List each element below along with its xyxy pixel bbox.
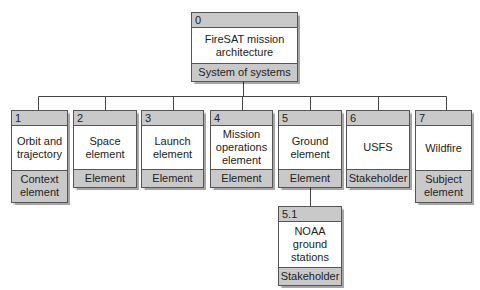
node-type: Element (211, 169, 272, 187)
node-title: NOAA ground stations (279, 222, 341, 267)
node-2-space-element: 2 Space element Element (73, 110, 137, 188)
node-type: Stakeholder (279, 267, 341, 285)
node-3-launch-element: 3 Launch element Element (141, 110, 204, 188)
node-id: 5 (279, 111, 341, 126)
node-id: 3 (142, 111, 203, 126)
node-0-firesat-mission-architecture: 0 FireSAT mission architecture System of… (191, 12, 298, 82)
node-5-1-noaa-ground-stations: 5.1 NOAA ground stations Stakeholder (278, 206, 342, 286)
node-title: Launch element (142, 126, 203, 169)
node-6-usfs: 6 USFS Stakeholder (346, 110, 410, 188)
node-title: USFS (347, 126, 409, 169)
node-title: Space element (74, 126, 136, 169)
node-type: System of systems (192, 63, 297, 81)
node-type: Element (279, 169, 341, 187)
node-title: Ground element (279, 126, 341, 169)
node-id: 7 (416, 111, 471, 126)
node-title: Orbit and trajectory (12, 126, 67, 170)
node-id: 5.1 (279, 207, 341, 222)
node-1-orbit-and-trajectory: 1 Orbit and trajectory Context element (11, 110, 68, 203)
node-type: Context element (12, 170, 67, 202)
node-title: Mission operations element (211, 126, 272, 169)
node-id: 6 (347, 111, 409, 126)
node-id: 2 (74, 111, 136, 126)
node-id: 1 (12, 111, 67, 126)
node-type: Element (74, 169, 136, 187)
node-title: FireSAT mission architecture (192, 28, 297, 63)
node-7-wildfire: 7 Wildfire Subject element (415, 110, 472, 203)
node-5-ground-element: 5 Ground element Element (278, 110, 342, 188)
node-type: Stakeholder (347, 169, 409, 187)
firesat-architecture-diagram: 0 FireSAT mission architecture System of… (0, 0, 480, 290)
node-id: 0 (192, 13, 297, 28)
node-id: 4 (211, 111, 272, 126)
node-title: Wildfire (416, 126, 471, 170)
node-type: Subject element (416, 170, 471, 202)
node-type: Element (142, 169, 203, 187)
node-4-mission-operations-element: 4 Mission operations element Element (210, 110, 273, 188)
